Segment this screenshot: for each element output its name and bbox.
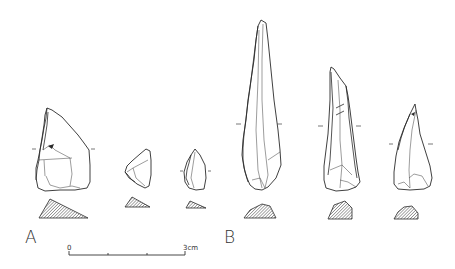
artifact-a2-outline bbox=[125, 149, 151, 188]
artifact-b1 bbox=[236, 20, 282, 190]
artifact-a3 bbox=[180, 149, 211, 190]
artifact-b1-section bbox=[244, 204, 276, 218]
artifact-b2-outline bbox=[324, 67, 360, 191]
artifact-b3 bbox=[389, 104, 433, 190]
artifact-a2 bbox=[125, 149, 151, 188]
artifact-a1 bbox=[32, 108, 95, 191]
lithic-illustration: A bbox=[0, 0, 455, 269]
scale-bar-start-label: 0 bbox=[67, 244, 71, 252]
artifact-b3-outline bbox=[394, 104, 432, 190]
scale-bar: 0 3cm bbox=[67, 244, 198, 255]
group-b: B bbox=[224, 20, 433, 247]
artifact-b3-section bbox=[394, 206, 418, 219]
artifact-a3-section bbox=[186, 201, 206, 208]
group-a: A bbox=[25, 108, 211, 247]
artifact-a1-section bbox=[39, 199, 88, 218]
artifact-b2 bbox=[318, 67, 361, 191]
group-label-a: A bbox=[25, 227, 37, 247]
artifact-b2-section bbox=[328, 201, 352, 219]
scale-bar-end-label: 3cm bbox=[183, 244, 198, 252]
artifact-a2-section bbox=[125, 197, 150, 207]
group-label-b: B bbox=[224, 227, 235, 247]
